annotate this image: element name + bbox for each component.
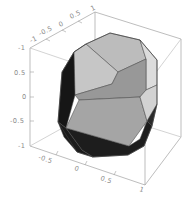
frame-edge-bottom-front-right — [145, 137, 181, 185]
dodecahedron-3d-plot: -1 -0.5 0 0.5 1 -1 0.5 0 -0.5 -1 -0.5 0 … — [0, 0, 196, 198]
tick-top-1 — [46, 39, 50, 41]
tick-label-top-4: 1 — [89, 4, 97, 13]
tick-labels-top-axis: -1 -0.5 0 0.5 1 — [28, 4, 97, 45]
tick-bottom-3 — [114, 171, 116, 175]
tick-labels-bottom-axis: -0.5 0 0.5 1 — [37, 153, 145, 194]
tick-label-top-3: 0.5 — [68, 9, 82, 21]
tick-bottom-1 — [56, 151, 58, 155]
tick-labels-left-axis: -1 0.5 0 -0.5 -1 — [10, 44, 27, 150]
tick-label-left-0: -1 — [18, 44, 25, 52]
tick-label-bottom-3: 1 — [138, 185, 145, 194]
tick-label-left-1: 0.5 — [14, 69, 26, 77]
tick-label-top-1: -0.5 — [37, 24, 53, 37]
tick-bottom-2 — [85, 161, 87, 165]
tick-label-left-3: -0.5 — [10, 117, 24, 125]
tick-label-top-0: -1 — [28, 34, 38, 44]
tick-top-3 — [78, 21, 82, 23]
tick-top-2 — [62, 30, 66, 32]
tick-label-top-2: 0 — [57, 20, 65, 29]
tick-label-left-4: -1 — [18, 142, 25, 150]
tick-label-bottom-1: 0 — [73, 164, 80, 173]
tick-label-bottom-2: 0.5 — [99, 174, 112, 185]
tick-label-bottom-0: -0.5 — [37, 153, 53, 165]
tick-label-left-2: 0 — [22, 93, 27, 101]
plot-container: -1 -0.5 0 0.5 1 -1 0.5 0 -0.5 -1 -0.5 0 … — [0, 0, 196, 198]
dodecahedron-solid — [58, 33, 157, 157]
